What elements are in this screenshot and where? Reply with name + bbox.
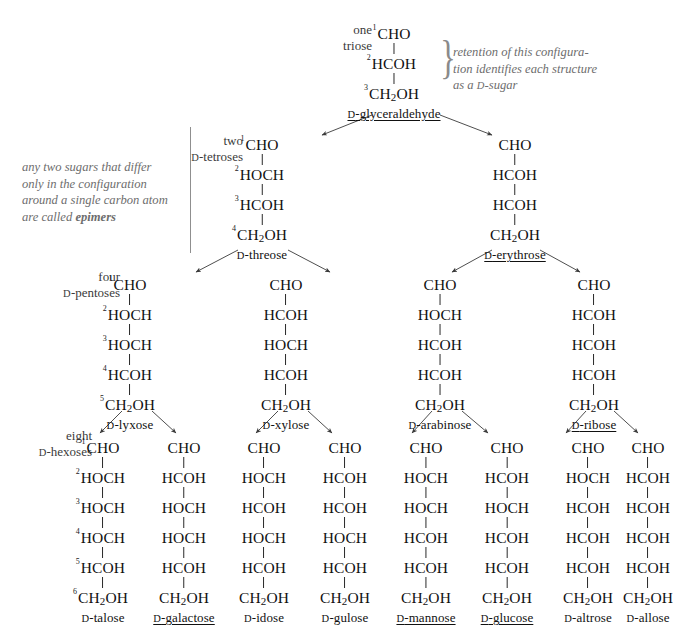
- functional-group: HCOH: [484, 197, 546, 212]
- functional-group: 3CH2OH: [347, 86, 440, 101]
- functional-group: CH2OH: [320, 590, 370, 605]
- bond-line: [286, 384, 287, 395]
- group-formula: CH2OH: [569, 396, 619, 413]
- functional-group: HCOH: [481, 530, 534, 545]
- group-formula: HOCH: [162, 529, 206, 546]
- functional-group: CH2OH: [481, 590, 534, 605]
- structure-d-mannose: CHOHOCHHOCHHCOHHCOHCH2OHD-mannose: [396, 440, 455, 626]
- d-prefix: D: [477, 80, 485, 91]
- d-prefix: D: [63, 287, 71, 298]
- bond-line: [264, 577, 265, 588]
- bond-line: [425, 487, 426, 498]
- d-prefix: D: [322, 613, 330, 624]
- subscript: 2: [391, 91, 397, 103]
- bond-line: [262, 184, 263, 195]
- functional-group: CH2OH: [563, 590, 613, 605]
- group-formula: CHO: [571, 439, 604, 456]
- group-formula: HOCH: [566, 469, 610, 486]
- group-formula: 1CHO: [86, 439, 119, 456]
- functional-group: CH2OH: [569, 397, 619, 412]
- structure-name: D-altrose: [563, 610, 613, 626]
- subscript: 2: [423, 595, 429, 607]
- d-prefix: D: [244, 613, 252, 624]
- annotation-line: as a D-sugar: [453, 77, 597, 94]
- bond-line: [103, 487, 104, 498]
- structure-d-lyxose: 1CHO2HOCH3HOCH4HCOH5CH2OHD-lyxose: [105, 277, 155, 433]
- group-formula: 2HOCH: [81, 469, 125, 486]
- bond-line: [506, 517, 507, 528]
- carbon-number: 2: [103, 305, 108, 313]
- carbon-number: 4: [232, 225, 237, 233]
- functional-group: 6CH2OH: [78, 590, 128, 605]
- annotation-line: tion identifies each structure: [453, 61, 597, 78]
- bond-line: [394, 73, 395, 84]
- functional-group: CHO: [320, 440, 370, 455]
- group-formula: HOCH: [242, 469, 286, 486]
- functional-group: HCOH: [623, 560, 673, 575]
- bond-line: [515, 214, 516, 225]
- functional-group: 2HOCH: [78, 470, 128, 485]
- structure-name: D-threose: [237, 247, 287, 263]
- bond-line: [506, 577, 507, 588]
- d-prefix: D: [572, 420, 580, 431]
- structure-name: D-lyxose: [105, 417, 155, 433]
- group-formula: CH2OH: [482, 589, 532, 606]
- carbon-number: 1: [108, 275, 113, 283]
- group-formula: HCOH: [162, 559, 206, 576]
- structure-name: D-talose: [78, 610, 128, 626]
- functional-group: HCOH: [153, 470, 215, 485]
- bond-line: [594, 294, 595, 305]
- functional-group: HCOH: [261, 307, 311, 322]
- group-formula: HCOH: [242, 559, 286, 576]
- bond-line: [440, 294, 441, 305]
- group-formula: CHO: [577, 276, 610, 293]
- subscript: 2: [100, 595, 106, 607]
- d-prefix: D: [481, 613, 489, 624]
- structure-name: D-idose: [239, 610, 289, 626]
- group-formula: CH2OH: [239, 589, 289, 606]
- bond-line: [588, 487, 589, 498]
- functional-group: 2HOCH: [105, 307, 155, 322]
- functional-group: 2HOCH: [237, 167, 287, 182]
- d-prefix: D: [564, 613, 572, 624]
- functional-group: HCOH: [563, 530, 613, 545]
- group-formula: HOCH: [162, 499, 206, 516]
- functional-group: HCOH: [396, 530, 455, 545]
- group-formula: CHO: [631, 439, 664, 456]
- functional-group: HOCH: [153, 500, 215, 515]
- carbon-number: 1: [81, 438, 86, 446]
- functional-group: CH2OH: [484, 227, 546, 242]
- group-formula: HCOH: [418, 336, 462, 353]
- group-formula: 3HOCH: [108, 336, 152, 353]
- functional-group: 3HOCH: [78, 500, 128, 515]
- functional-group: HCOH: [481, 470, 534, 485]
- functional-group: CHO: [484, 137, 546, 152]
- structure-name: D-glucose: [481, 610, 534, 626]
- subscript: 2: [591, 402, 597, 414]
- functional-group: HCOH: [409, 337, 472, 352]
- functional-group: 1CHO: [347, 26, 440, 41]
- functional-group: HCOH: [569, 367, 619, 382]
- functional-group: CHO: [481, 440, 534, 455]
- bond-line: [262, 214, 263, 225]
- functional-group: HCOH: [239, 500, 289, 515]
- group-formula: HOCH: [404, 499, 448, 516]
- bond-line: [103, 457, 104, 468]
- structure-name: D-erythrose: [484, 247, 546, 263]
- bond-line: [594, 324, 595, 335]
- bond-line: [515, 154, 516, 165]
- functional-group: CHO: [409, 277, 472, 292]
- bond-line: [103, 547, 104, 558]
- carbon-number: 2: [76, 468, 81, 476]
- functional-group: HCOH: [239, 560, 289, 575]
- bond-line: [286, 294, 287, 305]
- bond-line: [264, 517, 265, 528]
- functional-group: HOCH: [481, 500, 534, 515]
- functional-group: HCOH: [563, 500, 613, 515]
- bond-line: [345, 577, 346, 588]
- structure-d-talose: 1CHO2HOCH3HOCH4HOCH5HCOH6CH2OHD-talose: [78, 440, 128, 626]
- functional-group: 3HCOH: [237, 197, 287, 212]
- carbon-number: 3: [364, 84, 369, 92]
- bond-line: [130, 384, 131, 395]
